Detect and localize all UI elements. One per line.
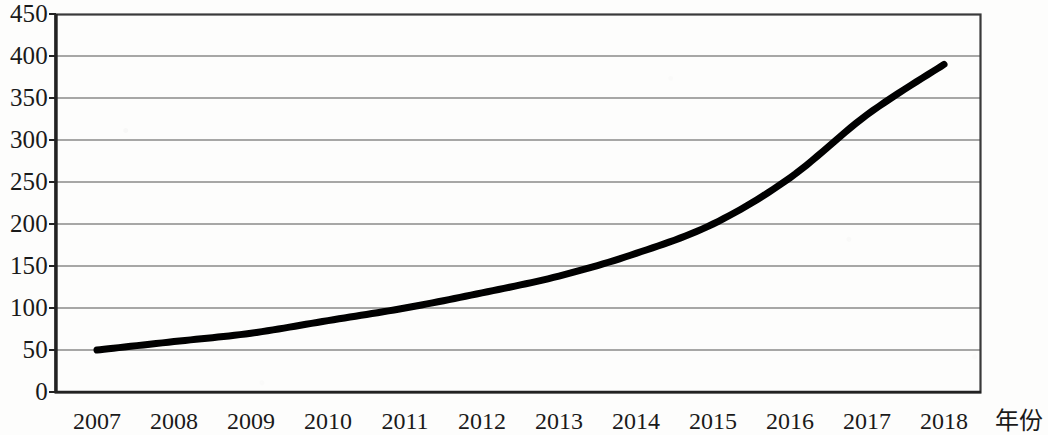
- x-tick-label: 2018: [920, 409, 968, 433]
- line-chart-figure: 450400350300250200150100500 200720082009…: [0, 0, 1048, 435]
- x-tick-label: 2012: [458, 409, 506, 433]
- gridlines: [56, 56, 980, 350]
- x-axis-title: 年份: [995, 409, 1043, 433]
- plot-area: [0, 0, 1048, 435]
- x-tick-label: 2011: [381, 409, 428, 433]
- x-tick-label: 2010: [304, 409, 352, 433]
- x-tick-label: 2016: [766, 409, 814, 433]
- x-tick-label: 2009: [227, 409, 275, 433]
- x-tick-label: 2007: [73, 409, 121, 433]
- x-tick-label: 2013: [535, 409, 583, 433]
- data-series-line: [97, 64, 944, 350]
- x-tick-label: 2017: [843, 409, 891, 433]
- x-tick-label: 2015: [689, 409, 737, 433]
- plot-border: [56, 15, 981, 393]
- x-tick-label: 2014: [612, 409, 660, 433]
- x-tick-label: 2008: [150, 409, 198, 433]
